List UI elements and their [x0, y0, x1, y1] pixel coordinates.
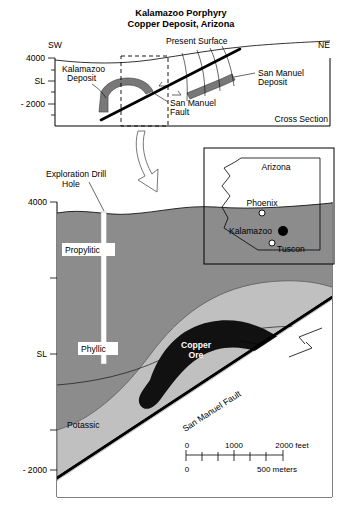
san-manuel-fault-label-line2: Fault — [170, 107, 190, 117]
cross-section-caption: Cross Section — [275, 114, 329, 124]
scale-feet-end: 2000 feet — [275, 441, 309, 450]
city-marker-phoenix — [259, 210, 265, 216]
city-marker-kalamazoo — [278, 226, 288, 236]
drill-hole-label-line1: Exploration Drill — [46, 169, 106, 179]
scale-meters-end: 500 meters — [257, 465, 297, 474]
san-manuel-deposit-label-line2: Deposit — [258, 77, 288, 87]
figure-title-line2: Copper Deposit, Arizona — [128, 19, 236, 29]
scale-feet-mid: 1000 — [225, 441, 243, 450]
inset-label-tuscon: Tuscon — [277, 244, 305, 254]
lower-axis-label-minus2000: - 2000 — [23, 465, 48, 475]
present-surface-label: Present Surface — [166, 36, 228, 46]
lower-axis-label-4000: 4000 — [28, 197, 47, 207]
lower-cross-section: 4000 SL - 2000 — [23, 169, 340, 500]
kalamazoo-deposit-label-line2: Deposit — [67, 73, 97, 83]
drill-hole-label-line2: Hole — [62, 179, 80, 189]
kalamazoo-porphyry-figure: Kalamazoo Porphyry Copper Deposit, Arizo… — [0, 0, 347, 523]
upper-axis-label-sl: SL — [34, 76, 45, 86]
zone-label-copper-ore-line1: Copper — [181, 340, 212, 350]
city-marker-tuscon — [269, 240, 275, 246]
inset-label-phoenix: Phoenix — [246, 198, 278, 208]
lower-axis-label-sl: SL — [36, 349, 47, 359]
upper-axis-label-4000: 4000 — [26, 53, 45, 63]
upper-axis-label-minus2000: - 2000 — [21, 99, 46, 109]
zone-label-phyllic: Phyllic — [81, 344, 107, 354]
exploration-drill-hole — [101, 212, 107, 364]
scale-meters-start: 0 — [185, 465, 190, 474]
figure-title-line1: Kalamazoo Porphyry — [135, 8, 227, 18]
zone-label-potassic: Potassic — [67, 420, 100, 430]
scale-feet-start: 0 — [185, 441, 190, 450]
inset-label-arizona: Arizona — [261, 162, 290, 172]
zone-label-propylitic: Propylitic — [65, 245, 101, 255]
zone-label-copper-ore-line2: Ore — [189, 350, 204, 360]
upper-direction-sw: SW — [48, 40, 63, 50]
inset-label-kalamazoo: Kalamazoo — [229, 226, 272, 236]
